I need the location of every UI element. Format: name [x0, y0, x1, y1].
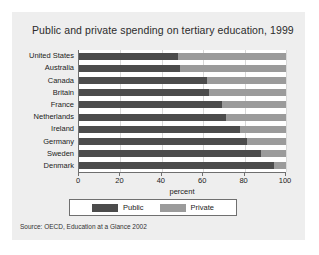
bar-row	[79, 126, 286, 133]
y-axis-label-canada: Canada	[48, 77, 74, 85]
bar-segment-private	[222, 101, 286, 108]
bar-segment-private	[261, 150, 286, 157]
bar-row	[79, 150, 286, 157]
bar-segment-public	[79, 101, 222, 108]
gridline	[286, 50, 287, 172]
bar-row	[79, 77, 286, 84]
bar-row	[79, 89, 286, 96]
source-note: Source: OECD, Education at a Glance 2002	[20, 223, 147, 230]
y-axis-label-britain: Britain	[53, 89, 74, 97]
y-axis-label-denmark: Denmark	[44, 162, 74, 170]
y-axis-label-france: France	[51, 101, 74, 109]
plot-area	[78, 50, 286, 173]
bar-segment-private	[274, 162, 286, 169]
x-tick-label-100: 100	[279, 176, 292, 185]
bar-segment-private	[207, 77, 286, 84]
bar-segment-private	[226, 114, 286, 121]
x-tick-label-40: 40	[157, 176, 165, 185]
bar-segment-private	[209, 89, 286, 96]
bar-row	[79, 53, 286, 60]
chart-legend: PublicPrivate	[69, 199, 237, 216]
x-tick-label-0: 0	[76, 176, 80, 185]
bar-segment-public	[79, 65, 180, 72]
bar-row	[79, 114, 286, 121]
x-tick-label-60: 60	[198, 176, 206, 185]
x-axis-ticks: 020406080100	[78, 173, 286, 187]
y-axis-label-ireland: Ireland	[51, 125, 74, 133]
bar-segment-public	[79, 138, 247, 145]
bar-segment-public	[79, 89, 209, 96]
legend-swatch-private	[160, 204, 186, 212]
bar-row	[79, 138, 286, 145]
y-axis-category-labels: United StatesAustraliaCanadaBritainFranc…	[12, 50, 74, 172]
bar-segment-public	[79, 77, 207, 84]
y-axis-label-germany: Germany	[43, 138, 74, 146]
y-axis-label-netherlands: Netherlands	[34, 113, 74, 121]
chart-figure: Public and private spending on tertiary …	[12, 12, 305, 240]
bar-segment-private	[247, 138, 286, 145]
y-axis-label-australia: Australia	[45, 64, 74, 72]
y-axis-label-sweden: Sweden	[47, 150, 74, 158]
legend-label-private: Private	[191, 203, 214, 212]
bar-segment-public	[79, 114, 226, 121]
legend-label-public: Public	[123, 203, 143, 212]
x-tick-label-20: 20	[115, 176, 123, 185]
bar-segment-private	[180, 65, 286, 72]
legend-entry-private: Private	[160, 203, 214, 212]
bar-segment-public	[79, 53, 178, 60]
bar-row	[79, 162, 286, 169]
x-axis-title: percent	[78, 187, 286, 196]
y-axis-label-united-states: United States	[29, 52, 74, 60]
bar-segment-public	[79, 126, 240, 133]
bar-segment-public	[79, 150, 261, 157]
bar-segment-private	[240, 126, 286, 133]
bar-segment-public	[79, 162, 274, 169]
bar-row	[79, 101, 286, 108]
x-tick-label-80: 80	[239, 176, 247, 185]
bar-row	[79, 65, 286, 72]
legend-swatch-public	[92, 204, 118, 212]
bar-segment-private	[178, 53, 286, 60]
legend-entry-public: Public	[92, 203, 143, 212]
chart-title: Public and private spending on tertiary …	[32, 24, 294, 36]
